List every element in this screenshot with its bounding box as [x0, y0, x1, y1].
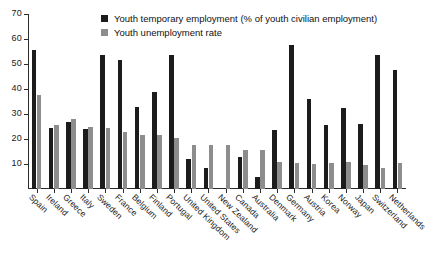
bar-group [49, 14, 59, 189]
bar-unemployment-rate [123, 132, 128, 190]
bar-group [324, 14, 334, 189]
bar-unemployment-rate [381, 168, 386, 189]
bar-group [169, 14, 179, 189]
bar-temporary-employment [100, 55, 105, 189]
bar-unemployment-rate [106, 128, 111, 189]
bar-group [289, 14, 299, 189]
y-axis-tick [24, 114, 28, 115]
bar-temporary-employment [83, 129, 88, 189]
bar-group [341, 14, 351, 189]
y-axis-tick-label: 70 [2, 8, 22, 18]
bar-unemployment-rate [398, 163, 403, 189]
bar-unemployment-rate [140, 135, 145, 189]
bar-temporary-employment [341, 108, 346, 189]
bar-temporary-employment [375, 55, 380, 189]
y-axis-tick [24, 164, 28, 165]
bar-group [238, 14, 248, 189]
y-axis-tick-label: 20 [2, 133, 22, 143]
bar-temporary-employment [272, 130, 277, 189]
y-axis-tick-label: 40 [2, 83, 22, 93]
bar-temporary-employment [186, 159, 191, 189]
bar-group [272, 14, 282, 189]
bar-temporary-employment [255, 177, 260, 190]
x-axis-labels: SpainIrelandGreeceItalySwedenFranceBelgi… [28, 192, 406, 272]
bar-unemployment-rate [71, 119, 76, 189]
bar-group [255, 14, 265, 189]
bar-unemployment-rate [157, 135, 162, 189]
y-axis-tick-label: 10 [2, 158, 22, 168]
y-axis-tick [24, 89, 28, 90]
bar-unemployment-rate [54, 125, 59, 189]
bar-temporary-employment [169, 55, 174, 189]
plot-area: 10203040506070 [28, 14, 406, 189]
bar-unemployment-rate [312, 164, 317, 189]
y-axis-tick [24, 64, 28, 65]
bar-unemployment-rate [192, 145, 197, 189]
bar-temporary-employment [118, 60, 123, 189]
bar-temporary-employment [393, 70, 398, 189]
bar-group [186, 14, 196, 189]
y-axis-tick-label: 30 [2, 108, 22, 118]
y-axis-tick-label: 60 [2, 33, 22, 43]
bar-unemployment-rate [260, 150, 265, 189]
bars-layer [28, 14, 406, 189]
y-axis-tick-label: 50 [2, 58, 22, 68]
bar-unemployment-rate [174, 138, 179, 189]
bar-group [100, 14, 110, 189]
bar-group [32, 14, 42, 189]
bar-temporary-employment [152, 92, 157, 190]
bar-group [118, 14, 128, 189]
bar-temporary-employment [204, 168, 209, 189]
bar-temporary-employment [49, 128, 54, 189]
bar-unemployment-rate [346, 162, 351, 190]
bar-temporary-employment [358, 124, 363, 189]
y-axis-tick [24, 39, 28, 40]
bar-group [152, 14, 162, 189]
bar-unemployment-rate [295, 163, 300, 189]
bar-group [307, 14, 317, 189]
bar-unemployment-rate [243, 150, 248, 189]
bar-temporary-employment [238, 157, 243, 190]
bar-group [135, 14, 145, 189]
bar-group [375, 14, 385, 189]
bar-temporary-employment [32, 50, 37, 190]
bar-group [204, 14, 214, 189]
bar-unemployment-rate [209, 145, 214, 189]
bar-unemployment-rate [363, 165, 368, 189]
bar-temporary-employment [66, 122, 71, 190]
bar-temporary-employment [135, 107, 140, 190]
bar-unemployment-rate [329, 163, 334, 189]
bar-unemployment-rate [37, 95, 42, 190]
bar-group [358, 14, 368, 189]
bar-unemployment-rate [88, 127, 93, 190]
bar-group [83, 14, 93, 189]
bar-temporary-employment [324, 125, 329, 189]
y-axis-tick [24, 139, 28, 140]
bar-group [221, 14, 231, 189]
bar-group [66, 14, 76, 189]
y-axis-tick [24, 14, 28, 15]
bar-temporary-employment [289, 45, 294, 189]
bar-temporary-employment [307, 99, 312, 189]
bar-unemployment-rate [277, 162, 282, 190]
bar-unemployment-rate [226, 145, 231, 189]
bar-group [393, 14, 403, 189]
